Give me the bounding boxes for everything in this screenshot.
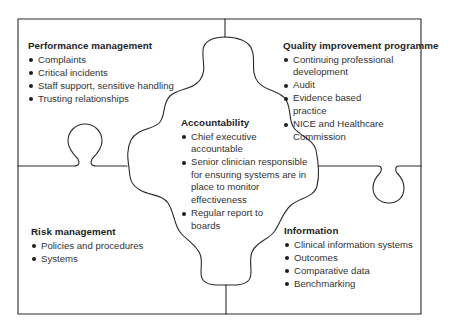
list-item: Continuing professional development [283, 54, 395, 79]
list-item: Trusting relationships [28, 93, 228, 106]
information-title: Information [284, 225, 434, 238]
list-item: Benchmarking [284, 278, 434, 291]
quality-improvement-title: Quality improvement programme [283, 40, 443, 53]
divider-left [18, 124, 127, 166]
performance-management-list: Complaints Critical incidents Staff supp… [28, 54, 228, 106]
list-item: Audit [283, 79, 395, 92]
list-item: Evidence based practice [283, 92, 395, 117]
list-item: Policies and procedures [31, 240, 191, 253]
list-item: Clinical information systems [284, 239, 434, 252]
accountability-title: Accountability [181, 117, 317, 130]
performance-management-title: Performance management [28, 40, 228, 53]
information-list: Clinical information systems Outcomes Co… [284, 239, 434, 291]
list-item: Complaints [28, 54, 228, 67]
list-item: Comparative data [284, 265, 434, 278]
risk-management-piece: Risk management Policies and procedures … [31, 226, 191, 266]
accountability-piece: Accountability Chief executive accountab… [181, 117, 317, 233]
list-item: Systems [31, 253, 191, 266]
list-item: Critical incidents [28, 67, 228, 80]
list-item: Senior clinician responsible for ensurin… [181, 156, 317, 206]
accountability-list: Chief executive accountable Senior clini… [181, 131, 317, 233]
risk-management-title: Risk management [31, 226, 191, 239]
performance-management-piece: Performance management Complaints Critic… [28, 40, 228, 106]
list-item: Chief executive accountable [181, 131, 259, 156]
information-piece: Information Clinical information systems… [284, 225, 434, 291]
risk-management-list: Policies and procedures Systems [31, 240, 191, 266]
divider-right [318, 166, 421, 203]
list-item: Regular report to boards [181, 207, 267, 232]
list-item: Outcomes [284, 252, 434, 265]
list-item: Staff support, sensitive handling [28, 80, 228, 93]
